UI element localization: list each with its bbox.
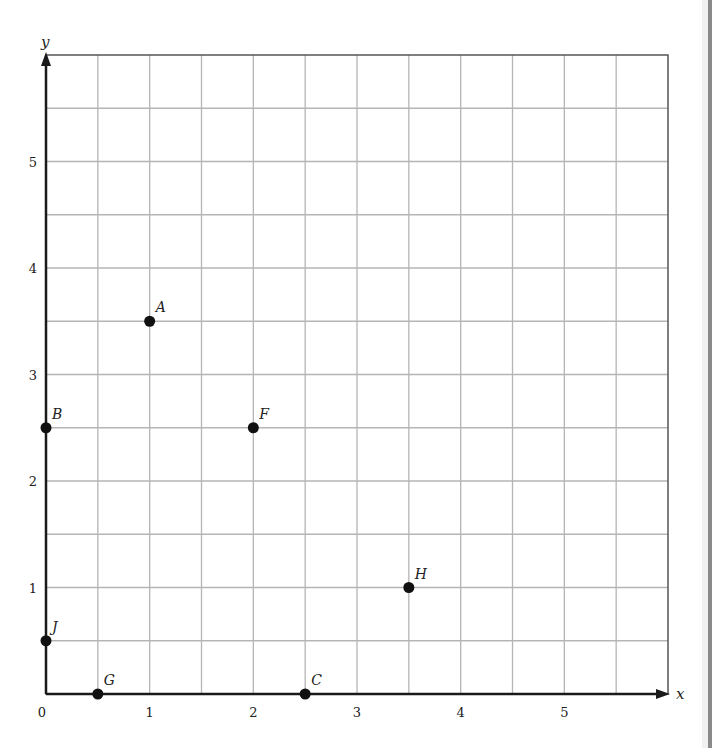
- point-label: H: [414, 566, 428, 582]
- y-tick-label: 5: [29, 155, 37, 170]
- point-label: B: [51, 406, 62, 422]
- x-tick-label: 1: [146, 705, 154, 720]
- y-tick-label: 4: [29, 261, 37, 276]
- point-f: F: [248, 406, 271, 434]
- data-points: ABFHJGC: [41, 299, 428, 699]
- y-axis-arrow-icon: [41, 52, 51, 66]
- coordinate-plane: xy 01234512345 ABFHJGC: [0, 0, 712, 748]
- point-marker-icon: [300, 689, 311, 700]
- x-tick-label: 2: [249, 705, 257, 720]
- x-tick-label: 0: [38, 705, 46, 720]
- point-a: A: [144, 299, 166, 327]
- point-c: C: [300, 672, 323, 700]
- y-tick-label: 3: [29, 368, 37, 383]
- point-label: A: [154, 299, 166, 315]
- point-marker-icon: [41, 635, 52, 646]
- x-axis-label: x: [676, 685, 685, 703]
- point-marker-icon: [92, 689, 103, 700]
- point-marker-icon: [248, 422, 259, 433]
- point-b: B: [41, 406, 63, 434]
- axes: xy: [40, 33, 685, 703]
- x-tick-label: 3: [353, 705, 361, 720]
- point-label: C: [311, 672, 322, 688]
- y-tick-label: 2: [29, 474, 37, 489]
- y-tick-label: 1: [29, 581, 37, 596]
- point-j: J: [41, 619, 60, 647]
- point-h: H: [403, 566, 428, 594]
- page-edge: [708, 0, 712, 748]
- point-label: J: [49, 619, 59, 635]
- point-marker-icon: [403, 582, 414, 593]
- point-label: G: [104, 672, 115, 688]
- point-marker-icon: [41, 422, 52, 433]
- point-marker-icon: [144, 316, 155, 327]
- tick-labels: 01234512345: [29, 155, 569, 721]
- y-axis-label: y: [40, 33, 50, 51]
- x-tick-label: 4: [457, 705, 465, 720]
- point-g: G: [92, 672, 115, 700]
- point-label: F: [258, 406, 270, 422]
- grid-lines: [46, 55, 668, 694]
- x-tick-label: 5: [560, 705, 568, 720]
